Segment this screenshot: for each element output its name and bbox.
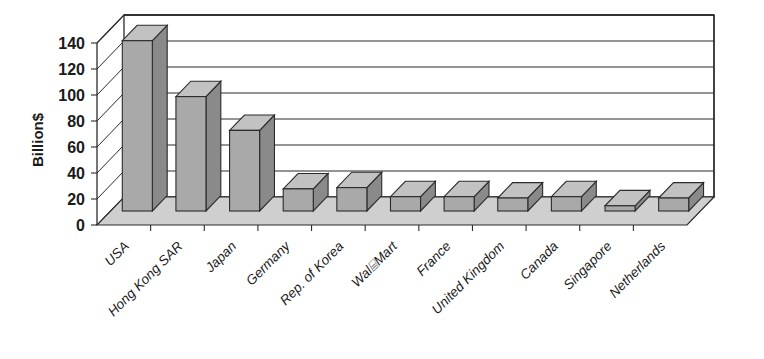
y-tick-label-20: 20 xyxy=(67,191,85,208)
y-depth-tick-120 xyxy=(97,41,124,69)
x-category-label-5: Wal⌸Mart xyxy=(348,238,401,291)
bar-chart-3d: 020406080100120140 USAHong Kong SARJapan… xyxy=(0,0,764,359)
chart-container: 020406080100120140 USAHong Kong SARJapan… xyxy=(0,0,764,359)
y-depth-tick-60 xyxy=(97,119,124,147)
bar-front-face-2 xyxy=(230,130,260,211)
x-axis-ticks xyxy=(151,225,634,231)
y-depth-tick-80 xyxy=(97,93,124,121)
y-depth-tick-40 xyxy=(97,145,124,173)
bar-2 xyxy=(230,115,275,211)
bar-front-face-4 xyxy=(337,188,367,211)
x-category-label-6: France xyxy=(413,239,453,279)
y-tick-label-0: 0 xyxy=(76,217,85,234)
y-depth-tick-100 xyxy=(97,67,124,95)
bar-side-face-0 xyxy=(152,25,167,211)
y-depth-tick-20 xyxy=(97,171,124,199)
y-tick-label-60: 60 xyxy=(67,139,85,156)
y-axis-ticks xyxy=(91,15,124,225)
bar-front-face-3 xyxy=(283,189,313,211)
x-category-label-9: Singapore xyxy=(561,239,615,293)
y-tick-label-40: 40 xyxy=(67,165,85,182)
y-axis-tick-labels: 020406080100120140 xyxy=(58,35,85,234)
bar-front-face-7 xyxy=(498,198,528,211)
y-tick-label-120: 120 xyxy=(58,61,85,78)
x-category-label-8: Canada xyxy=(517,238,561,282)
bar-front-face-6 xyxy=(444,197,474,211)
bar-front-face-1 xyxy=(176,97,206,211)
bar-1 xyxy=(176,81,221,211)
x-axis-category-labels: USAHong Kong SARJapanGermanyRep. of Kore… xyxy=(102,238,669,320)
y-tick-label-140: 140 xyxy=(58,35,85,52)
bar-front-face-8 xyxy=(551,197,581,211)
y-depth-tick-140 xyxy=(97,15,124,43)
bar-front-face-9 xyxy=(605,206,635,211)
bar-front-face-5 xyxy=(390,197,420,211)
x-category-label-3: Germany xyxy=(243,238,294,289)
y-axis-title: Billion$ xyxy=(29,112,46,167)
x-category-label-10: Netherlands xyxy=(606,238,668,300)
x-category-label-0: USA xyxy=(102,239,132,269)
bar-front-face-0 xyxy=(122,41,152,211)
y-tick-label-100: 100 xyxy=(58,87,85,104)
x-category-label-2: Japan xyxy=(202,239,239,276)
bar-0 xyxy=(122,25,167,211)
bar-side-face-2 xyxy=(260,115,275,211)
y-tick-label-80: 80 xyxy=(67,113,85,130)
bar-front-face-10 xyxy=(659,198,689,211)
bar-side-face-1 xyxy=(206,81,221,211)
